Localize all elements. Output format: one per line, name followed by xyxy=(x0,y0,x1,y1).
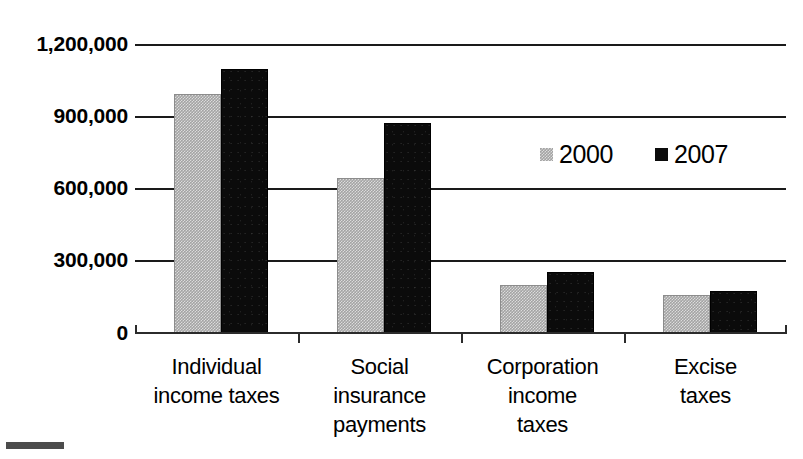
category-label-line: Excise xyxy=(624,352,787,381)
legend-label-2000: 2000 xyxy=(559,142,613,167)
bar-2000-social-insurance-payments xyxy=(337,178,384,333)
bar-2000-corporation-income-taxes xyxy=(500,285,547,333)
category-label-line: taxes xyxy=(461,410,624,439)
category-label-line: Individual xyxy=(135,352,298,381)
y-axis-tick-label: 900,000 xyxy=(2,105,128,126)
legend-swatch-icon-2007 xyxy=(655,148,668,161)
bar-2007-excise-taxes xyxy=(710,291,757,333)
legend-swatch-icon-2000 xyxy=(540,148,553,161)
category-label-line: income xyxy=(461,381,624,410)
bar-2007-social-insurance-payments xyxy=(384,123,431,333)
bar-2000-excise-taxes xyxy=(663,295,710,333)
category-label-line: income taxes xyxy=(135,381,298,410)
x-axis-tick-1 xyxy=(298,334,300,343)
gridline-1200000 xyxy=(135,44,786,46)
category-label-line: payments xyxy=(298,410,461,439)
y-axis-tick-labels: 1,200,000 900,000 600,000 300,000 0 xyxy=(0,0,128,459)
category-label-line: Social xyxy=(298,352,461,381)
scan-artifact xyxy=(6,442,64,449)
legend-label-2007: 2007 xyxy=(674,142,728,167)
legend-item-2007: 2007 xyxy=(655,142,728,167)
category-label-line: insurance xyxy=(298,381,461,410)
legend-item-2000: 2000 xyxy=(540,142,613,167)
legend: 2000 2007 xyxy=(540,142,728,167)
bar-chart: 1,200,000 900,000 600,000 300,000 0 Indi… xyxy=(0,0,803,459)
y-axis-tick-label: 300,000 xyxy=(2,249,128,270)
bar-2000-individual-income-taxes xyxy=(174,94,221,333)
plot-area xyxy=(135,44,786,333)
bar-2007-individual-income-taxes xyxy=(221,69,268,333)
x-axis-category-label-corporation-income-taxes: Corporation income taxes xyxy=(461,352,624,439)
x-axis-category-label-individual-income-taxes: Individual income taxes xyxy=(135,352,298,410)
category-label-line: Corporation xyxy=(461,352,624,381)
category-label-line: taxes xyxy=(624,381,787,410)
x-axis-tick-2 xyxy=(461,334,463,343)
y-axis-tick-label: 600,000 xyxy=(2,177,128,198)
x-axis-tick-3 xyxy=(624,334,626,343)
x-axis-category-label-social-insurance-payments: Social insurance payments xyxy=(298,352,461,439)
y-axis-tick-label: 0 xyxy=(2,322,128,343)
x-axis-end-tick-left xyxy=(135,325,137,333)
x-axis-end-tick-right xyxy=(785,325,787,333)
bar-2007-corporation-income-taxes xyxy=(547,272,594,333)
y-axis-tick-label: 1,200,000 xyxy=(2,33,128,54)
x-axis-category-label-excise-taxes: Excise taxes xyxy=(624,352,787,410)
